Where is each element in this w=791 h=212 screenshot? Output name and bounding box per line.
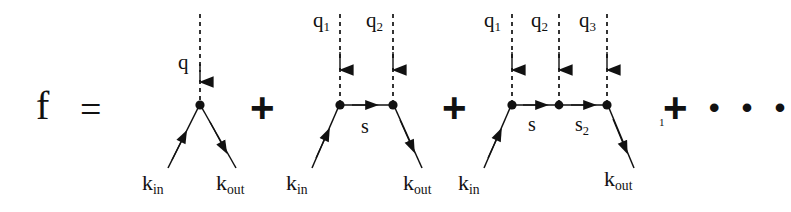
diagram1-kout-label: kout [216,172,244,197]
diagram3-vertex-middle [555,101,564,110]
diagram3-kin-base: k [458,170,469,195]
diagram3-q2-subscript: 2 [542,19,549,34]
diagram3-kin-arrow [488,134,499,158]
diagram2-kout-arrow [400,120,412,147]
plus-sign-3: + [663,87,688,129]
diagram2-kout-base: k [403,170,414,195]
diagram3-kout-subscript: out [615,178,632,193]
diagram3-q3-subscript: 3 [590,19,597,34]
diagram1-kin-base: k [142,170,153,195]
diagram3-kout-base: k [604,166,615,191]
equation-equals-sign: = [80,90,101,128]
plus-sign-2: + [442,87,467,129]
diagram2-q1-base: q [313,8,324,32]
diagram3-kout-arrow [613,119,625,148]
diagram-2-group [312,14,422,168]
plus-sign-3-subscript: 1 [659,116,665,128]
feynman-series-figure: f = q kin kout + q1 q2 s kin kout + q1 q… [0,0,791,212]
diagram2-q2-subscript: 2 [377,19,384,34]
diagram1-q-label: q [178,52,189,73]
diagram-1-group [168,14,236,168]
diagram1-kin-arrow [172,136,184,160]
diagram3-q3-base: q [579,8,590,32]
diagram1-kin-label: kin [142,172,164,197]
diagram3-kout-label: kout [604,168,632,193]
ellipsis-dots: • • • [709,93,791,123]
diagram2-q1-label: q1 [313,10,330,33]
diagram1-vertex [195,100,204,109]
diagram1-kout-arrow [210,122,224,148]
equation-lhs-f: f [36,86,49,126]
diagram3-q1-subscript: 1 [495,19,502,34]
diagram3-vertex-right [602,100,611,109]
diagram2-kin-label: kin [286,172,308,197]
diagram2-q2-label: q2 [366,10,383,33]
diagram2-vertex-left [335,100,344,109]
diagram2-kin-arrow [316,134,327,158]
diagram3-q1-label: q1 [484,10,501,33]
diagram3-q3-label: q3 [579,10,596,33]
diagram3-s-label: s [528,114,536,134]
diagram3-kin-subscript: in [469,182,480,197]
diagram3-q2-label: q2 [531,10,548,33]
diagram2-kout-subscript: out [414,182,431,197]
diagram2-kout-label: kout [403,172,431,197]
diagram2-q2-base: q [366,8,377,32]
diagram2-vertex-right [388,100,397,109]
diagram3-s2-label: s2 [575,114,589,137]
diagram-3-group [484,14,634,168]
diagram3-s2-subscript: 2 [583,124,589,138]
diagram2-s-label: s [361,116,369,136]
diagram2-q1-subscript: 1 [324,19,331,34]
diagram2-kin-base: k [286,170,297,195]
diagram3-q2-base: q [531,8,542,32]
diagram1-kin-subscript: in [153,182,164,197]
diagram3-vertex-left [507,100,516,109]
diagram1-kout-base: k [216,170,227,195]
diagram1-kout-subscript: out [227,182,244,197]
diagram3-q1-base: q [484,8,495,32]
diagram2-kin-subscript: in [297,182,308,197]
diagram3-s2-base: s [575,113,583,135]
plus-sign-1: + [250,87,275,129]
diagram3-kin-label: kin [458,172,480,197]
